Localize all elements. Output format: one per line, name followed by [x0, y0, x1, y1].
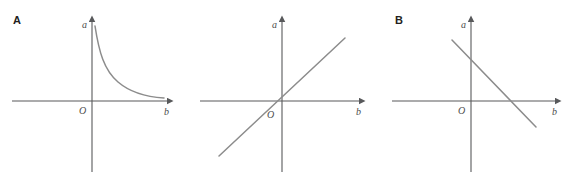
panel-a-x-axis-label: b	[164, 107, 169, 117]
panel-a-plot	[0, 0, 192, 181]
hyperbola-curve	[95, 26, 164, 98]
panel-a-y-axis-label: a	[82, 20, 87, 30]
panel-c: C a b O	[384, 0, 576, 181]
panel-b-origin-label: O	[267, 110, 274, 120]
panel-c-x-axis-label: b	[552, 107, 557, 117]
physics-graph-figure: A a b O B a b O	[0, 0, 576, 181]
panel-a: A a b O	[0, 0, 192, 181]
panel-b: B a b O	[192, 0, 384, 181]
panel-a-origin-label: O	[79, 106, 86, 116]
panel-letter-a: A	[13, 15, 21, 26]
panel-b-plot	[192, 0, 384, 181]
panel-c-y-axis-label: a	[461, 20, 466, 30]
panel-c-origin-label: O	[458, 106, 465, 116]
panel-b-x-axis-label: b	[356, 107, 361, 117]
panel-c-plot	[384, 0, 576, 181]
panel-b-y-axis-label: a	[272, 20, 277, 30]
